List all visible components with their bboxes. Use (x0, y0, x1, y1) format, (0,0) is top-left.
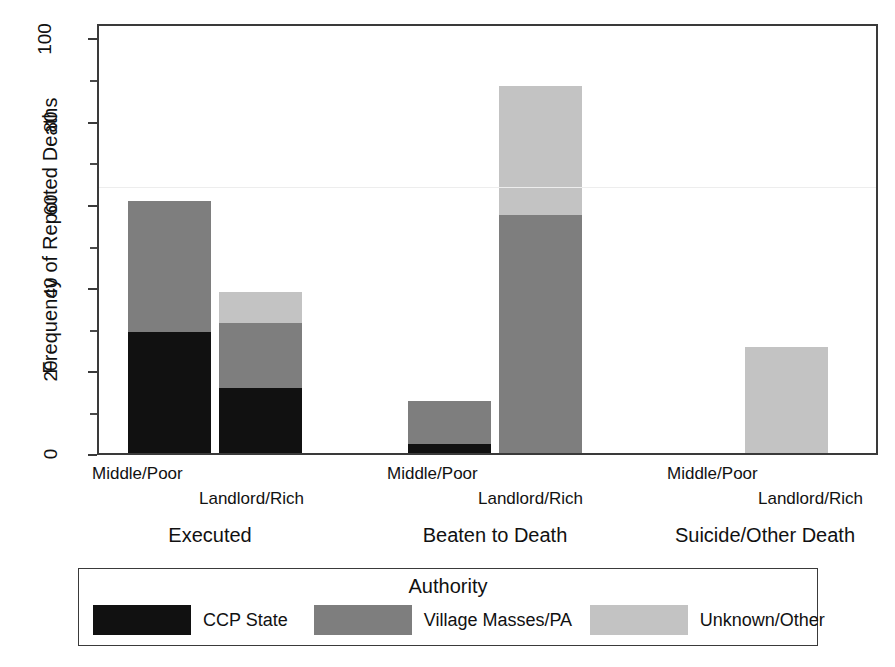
bar-segment-unknown-other (745, 347, 828, 453)
legend: Authority CCP State Village Masses/PA Un… (78, 568, 818, 646)
bar-executed-landlord-rich (219, 292, 302, 453)
bar-beaten-middle-poor (408, 401, 491, 453)
x-group-label-executed: Executed (110, 524, 310, 547)
x-category-label-beaten-middle-poor: Middle/Poor (387, 464, 478, 484)
bar-segment-village-masses (128, 201, 211, 332)
legend-label-unknown-other: Unknown/Other (700, 610, 825, 631)
bar-beaten-landlord-rich (499, 86, 582, 453)
legend-item-village-masses[interactable]: Village Masses/PA (314, 605, 564, 635)
x-group-label-suicide: Suicide/Other Death (640, 524, 890, 547)
legend-title: Authority (79, 575, 817, 598)
y-tick-label-40: 40 (28, 277, 74, 299)
y-tick-mark-90 (90, 80, 97, 82)
y-tick-mark-20 (88, 371, 97, 373)
bar-segment-unknown-other (219, 292, 302, 323)
chart-figure: Frequency of Reported Deaths 0 20 40 60 … (0, 0, 895, 667)
legend-swatch-unknown-other (590, 605, 688, 635)
legend-item-list: CCP State Village Masses/PA Unknown/Othe… (79, 605, 817, 635)
y-tick-mark-100 (88, 38, 97, 40)
legend-swatch-ccp-state (93, 605, 191, 635)
legend-item-ccp-state[interactable]: CCP State (93, 605, 288, 635)
y-tick-mark-10 (90, 413, 97, 415)
y-tick-label-60: 60 (28, 194, 74, 216)
bar-segment-village-masses (219, 323, 302, 388)
bar-segment-village-masses (408, 401, 491, 444)
y-tick-mark-30 (90, 330, 97, 332)
y-tick-mark-40 (88, 288, 97, 290)
legend-item-unknown-other[interactable]: Unknown/Other (590, 605, 800, 635)
x-group-label-beaten: Beaten to Death (390, 524, 600, 547)
y-tick-mark-70 (90, 163, 97, 165)
faint-horizontal-rule (99, 187, 876, 188)
y-tick-label-20: 20 (28, 360, 74, 382)
y-tick-mark-50 (90, 247, 97, 249)
x-category-label-suicide-landlord-rich: Landlord/Rich (758, 489, 863, 509)
bar-segment-ccp-state (408, 444, 491, 453)
x-category-label-executed-middle-poor: Middle/Poor (92, 464, 183, 484)
legend-label-ccp-state: CCP State (203, 610, 288, 631)
legend-swatch-village-masses (314, 605, 412, 635)
y-tick-mark-80 (88, 122, 97, 124)
y-axis-title: Frequency of Reported Deaths (39, 26, 62, 446)
plot-area (97, 24, 878, 455)
bar-segment-village-masses (499, 215, 582, 453)
y-tick-label-80: 80 (28, 111, 74, 133)
y-tick-label-0: 0 (28, 443, 74, 465)
x-category-label-executed-landlord-rich: Landlord/Rich (199, 489, 304, 509)
legend-label-village-masses: Village Masses/PA (424, 610, 572, 631)
bar-suicide-landlord-rich (745, 347, 828, 453)
bar-segment-ccp-state (219, 388, 302, 453)
x-category-label-beaten-landlord-rich: Landlord/Rich (478, 489, 583, 509)
x-category-label-suicide-middle-poor: Middle/Poor (667, 464, 758, 484)
y-tick-mark-0 (88, 454, 97, 456)
bar-segment-ccp-state (128, 332, 211, 453)
bar-segment-unknown-other (499, 86, 582, 215)
bar-executed-middle-poor (128, 201, 211, 453)
y-tick-mark-60 (88, 205, 97, 207)
y-tick-label-100: 100 (22, 28, 68, 50)
